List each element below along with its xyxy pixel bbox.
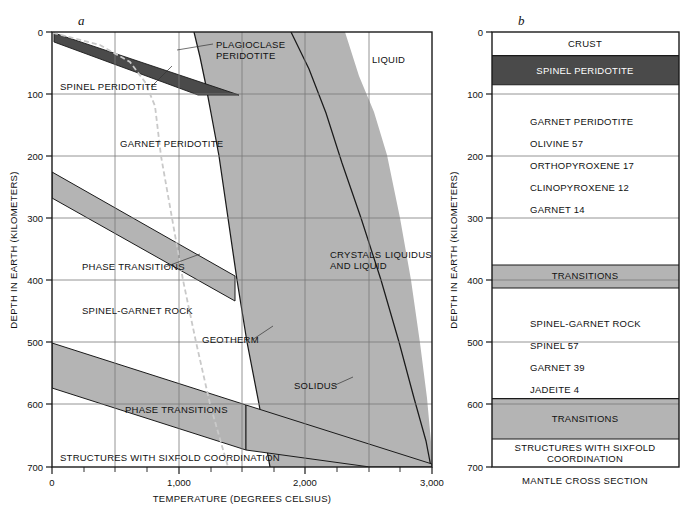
y-tick-a-300: 300 bbox=[27, 213, 43, 224]
y-tick-b-0: 0 bbox=[478, 27, 483, 38]
x-axis-title-a: TEMPERATURE (DEGREES CELSIUS) bbox=[153, 493, 332, 504]
label-crust: CRUST bbox=[568, 38, 602, 49]
label-structures-sixfold-b-line1: STRUCTURES WITH SIXFOLD bbox=[515, 442, 656, 453]
label-spinel-peridotite: SPINEL PERIDOTITE bbox=[60, 81, 157, 92]
label-orthopyroxene: ORTHOPYROXENE 17 bbox=[530, 160, 634, 171]
label-structures-sixfold: STRUCTURES WITH SIXFOLD COORDINATION bbox=[60, 452, 280, 463]
panel-a: a bbox=[8, 13, 444, 504]
label-transitions-upper: TRANSITIONS bbox=[552, 270, 619, 281]
label-crystals-and-liquid-line2: AND LIQUID bbox=[330, 260, 387, 271]
label-phase-transitions-upper: PHASE TRANSITIONS bbox=[82, 261, 185, 272]
y-tick-b-500: 500 bbox=[467, 337, 483, 348]
y-tick-b-600: 600 bbox=[467, 399, 483, 410]
label-jadeite: JADEITE 4 bbox=[530, 384, 579, 395]
x-tick-a-2000: 2,000 bbox=[293, 477, 317, 488]
y-tick-b-100: 100 bbox=[467, 89, 483, 100]
label-garnet-peridotite: GARNET PERIDOTITE bbox=[120, 138, 223, 149]
label-spinel: SPINEL 57 bbox=[530, 340, 579, 351]
y-tick-a-600: 600 bbox=[27, 399, 43, 410]
layer-rect-spinel-garnet-rock bbox=[492, 288, 679, 399]
y-axis-title-a: DEPTH IN EARTH (KILOMETERS) bbox=[8, 171, 19, 328]
x-tick-a-3000: 3,000 bbox=[420, 477, 444, 488]
label-geotherm: GEOTHERM bbox=[202, 334, 259, 345]
label-olivine: OLIVINE 57 bbox=[530, 138, 583, 149]
label-structures-sixfold-b-line2: COORDINATION bbox=[547, 453, 623, 464]
label-plagioclase-peridotite-line2: PERIDOTITE bbox=[216, 50, 276, 61]
label-phase-transitions-lower: PHASE TRANSITIONS bbox=[125, 404, 228, 415]
figure-root: a bbox=[0, 0, 697, 515]
panel-b-caption: MANTLE CROSS SECTION bbox=[522, 475, 648, 486]
label-crystals-and-liquid-line1: CRYSTALS bbox=[330, 249, 381, 260]
y-tick-a-0: 0 bbox=[38, 27, 43, 38]
panel-b-plot-area bbox=[492, 32, 679, 467]
label-plagioclase-peridotite-line1: PLAGIOCLASE bbox=[216, 39, 285, 50]
panel-b-letter: b bbox=[518, 13, 525, 28]
y-tick-b-200: 200 bbox=[467, 151, 483, 162]
y-tick-a-100: 100 bbox=[27, 89, 43, 100]
figure-svg: a bbox=[0, 0, 697, 515]
label-liquid: LIQUID bbox=[372, 54, 405, 65]
y-tick-b-400: 400 bbox=[467, 275, 483, 286]
layer-rect-garnet-peridotite bbox=[492, 85, 679, 265]
label-clinopyroxene: CLINOPYROXENE 12 bbox=[530, 182, 629, 193]
y-tick-a-200: 200 bbox=[27, 151, 43, 162]
y-tick-a-700: 700 bbox=[27, 462, 43, 473]
y-tick-a-400: 400 bbox=[27, 275, 43, 286]
y-tick-b-300: 300 bbox=[467, 213, 483, 224]
label-spinel-garnet-rock-b: SPINEL-GARNET ROCK bbox=[530, 318, 641, 329]
x-tick-a-1000: 1,000 bbox=[167, 477, 191, 488]
x-tick-a-0: 0 bbox=[49, 477, 54, 488]
label-garnet: GARNET 14 bbox=[530, 204, 585, 215]
y-tick-b-700: 700 bbox=[467, 462, 483, 473]
label-transitions-lower: TRANSITIONS bbox=[552, 413, 619, 424]
label-liquidus: LIQUIDUS bbox=[385, 249, 432, 260]
y-tick-a-500: 500 bbox=[27, 337, 43, 348]
label-spinel-peridotite-b: SPINEL PERIDOTITE bbox=[536, 65, 633, 76]
label-solidus: SOLIDUS bbox=[294, 380, 337, 391]
panel-a-letter: a bbox=[78, 13, 85, 28]
label-garnet-peridotite-b: GARNET PERIDOTITE bbox=[530, 116, 633, 127]
label-garnet-b: GARNET 39 bbox=[530, 362, 585, 373]
label-spinel-garnet-rock: SPINEL-GARNET ROCK bbox=[82, 305, 193, 316]
y-axis-title-b: DEPTH IN EARTH (KILOMETERS) bbox=[448, 171, 459, 328]
